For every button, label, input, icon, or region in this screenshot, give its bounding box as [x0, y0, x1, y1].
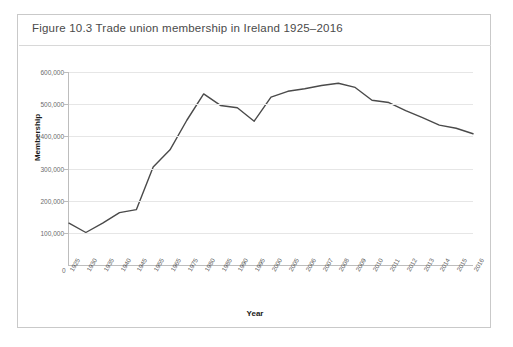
gridline: [69, 136, 473, 137]
y-tick-label: 600,000: [41, 69, 65, 76]
y-tick-mark: [63, 72, 68, 73]
figure-caption: Figure 10.3 Trade union membership in Ir…: [32, 22, 343, 34]
gridline: [69, 201, 473, 202]
gridline: [69, 72, 473, 73]
series-polyline: [69, 83, 473, 232]
x-axis-tick-labels: 1925193019351940194519551965197519801985…: [18, 269, 492, 309]
y-tick-mark: [63, 233, 68, 234]
y-tick-label: 300,000: [41, 165, 65, 172]
y-tick-label: 200,000: [41, 197, 65, 204]
y-tick-mark: [63, 104, 68, 105]
gridline: [69, 233, 473, 234]
gridline: [69, 104, 473, 105]
caption-divider: [19, 45, 491, 46]
y-tick-mark: [63, 169, 68, 170]
y-axis-title: Membership: [33, 93, 42, 183]
x-tick-label: 2016: [472, 257, 485, 273]
gridline: [69, 169, 473, 170]
figure-container: Figure 10.3 Trade union membership in Ir…: [17, 14, 491, 328]
y-tick-label: 100,000: [41, 229, 65, 236]
plot-area: [69, 72, 473, 265]
y-tick-label: 400,000: [41, 133, 65, 140]
y-tick-mark: [63, 201, 68, 202]
y-tick-label: 500,000: [41, 101, 65, 108]
x-axis-title: Year: [18, 309, 492, 318]
y-tick-mark: [63, 136, 68, 137]
